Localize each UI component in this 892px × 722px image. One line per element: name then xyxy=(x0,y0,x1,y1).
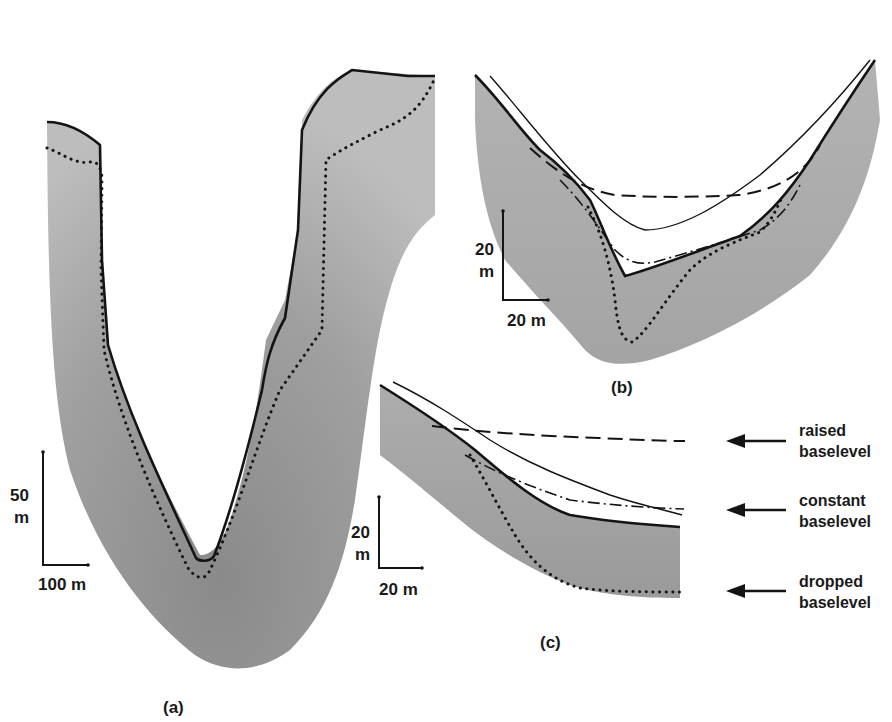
panel-c-vertical-scale-value: 20 xyxy=(351,523,370,543)
panel-c-scale-bar xyxy=(379,497,422,568)
legend-dropped-line1: dropped xyxy=(799,571,871,592)
legend-dropped-baselevel: dropped baselevel xyxy=(799,571,871,613)
panel-c-label: (c) xyxy=(540,633,561,653)
legend-constant-line1: constant xyxy=(799,490,871,511)
panel-c-raised-baselevel-line xyxy=(432,426,685,441)
legend-arrows xyxy=(726,434,786,598)
panel-b-vertical-scale-value: 20 xyxy=(475,240,494,260)
panel-c-vertical-scale-unit: m xyxy=(355,545,370,565)
arrow-left-icon xyxy=(726,503,786,517)
panel-a xyxy=(41,70,435,668)
legend-constant-baselevel: constant baselevel xyxy=(799,490,871,532)
panel-c-rock-fill xyxy=(380,385,680,598)
panel-b-label: (b) xyxy=(611,378,633,398)
panel-b-vertical-scale-unit: m xyxy=(479,262,494,282)
legend-raised-line2: baselevel xyxy=(799,441,871,462)
panel-a-vertical-scale-value: 50 xyxy=(10,486,29,506)
legend-raised-line1: raised xyxy=(799,420,871,441)
panel-c-horizontal-scale: 20 m xyxy=(379,580,418,600)
panel-a-horizontal-scale: 100 m xyxy=(38,575,86,595)
legend-raised-baselevel: raised baselevel xyxy=(799,420,871,462)
panel-a-label: (a) xyxy=(163,698,184,718)
arrow-left-icon xyxy=(726,434,786,448)
legend-constant-line2: baselevel xyxy=(799,511,871,532)
panel-c xyxy=(377,382,685,598)
panel-a-rock-fill xyxy=(47,70,435,668)
valley-profile-diagram xyxy=(0,0,892,722)
panel-a-vertical-scale-unit: m xyxy=(14,508,29,528)
arrow-left-icon xyxy=(726,584,786,598)
legend-dropped-line2: baselevel xyxy=(799,592,871,613)
panel-b-horizontal-scale: 20 m xyxy=(507,311,546,331)
